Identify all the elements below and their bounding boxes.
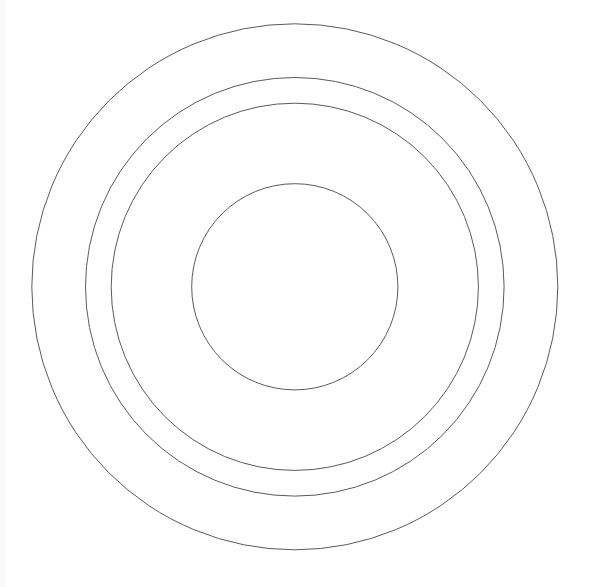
inner-circle bbox=[192, 184, 398, 390]
concentric-circles-diagram bbox=[0, 0, 589, 587]
third-ring bbox=[111, 103, 478, 470]
second-ring bbox=[85, 77, 504, 496]
rings-group bbox=[32, 24, 558, 550]
